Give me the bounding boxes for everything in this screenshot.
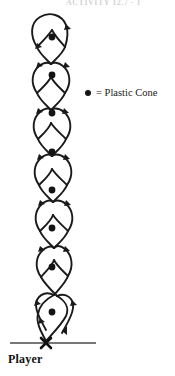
- cone-marker: [49, 264, 56, 271]
- legend: = Plastic Cone: [85, 88, 157, 99]
- cone-marker: [49, 149, 56, 156]
- cone-marker: [49, 72, 56, 79]
- cone-dot-icon: [85, 90, 91, 96]
- player-label: Player: [8, 353, 43, 365]
- cone-marker: [49, 309, 56, 316]
- cone-marker: [49, 225, 56, 232]
- weave-path-graphic: [0, 0, 175, 376]
- cone-marker: [49, 34, 56, 41]
- legend-label: = Plastic Cone: [96, 88, 157, 99]
- figure-caption-cropped: ACTIVITY 12.7 - 1: [66, 0, 172, 6]
- cone-marker: [49, 187, 56, 194]
- drill-diagram: ACTIVITY 12.7 - 1: [0, 0, 175, 376]
- cone-marker: [49, 110, 56, 117]
